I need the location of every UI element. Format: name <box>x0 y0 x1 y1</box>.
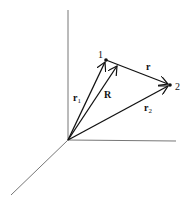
horizontal-axis <box>68 140 176 141</box>
point-1-dot <box>104 58 108 62</box>
vector-r-arrow <box>106 60 168 84</box>
vector-r1-subscript: 1 <box>77 97 81 105</box>
vector-R-arrow <box>68 66 117 140</box>
vector-r1-label: r1 <box>73 92 81 105</box>
point-1-label: 1 <box>98 49 103 60</box>
vector-r2-subscript: 2 <box>148 107 152 115</box>
vector-r2-label: r2 <box>144 102 152 115</box>
point-2-dot <box>168 83 172 87</box>
vector-r2-arrow <box>68 86 168 140</box>
point-2-label: 2 <box>175 81 180 92</box>
vector-diagram: 1 2 r1 R r2 r <box>0 0 190 210</box>
vector-R-label: R <box>104 89 112 100</box>
vector-r-label: r <box>146 61 151 72</box>
depth-axis <box>11 140 68 195</box>
